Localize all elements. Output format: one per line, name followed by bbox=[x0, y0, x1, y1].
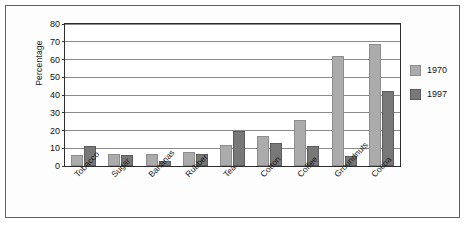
legend-swatch bbox=[410, 89, 421, 100]
chart-legend: 19701997 bbox=[410, 65, 466, 113]
y-tick-label: 0 bbox=[55, 162, 60, 171]
y-tick-label: 10 bbox=[50, 144, 60, 153]
y-tick-label: 20 bbox=[50, 126, 60, 135]
bar bbox=[332, 56, 344, 166]
y-tick-label: 30 bbox=[50, 108, 60, 117]
bar-group bbox=[65, 24, 102, 166]
y-axis-title: Percentage bbox=[34, 8, 44, 118]
bar-group bbox=[177, 24, 214, 166]
bar-group bbox=[251, 24, 288, 166]
bar-group bbox=[288, 24, 325, 166]
bar-group bbox=[139, 24, 176, 166]
y-tick-label: 40 bbox=[50, 91, 60, 100]
chart-figure: Percentage 01020304050607080 TobaccoSuga… bbox=[0, 0, 467, 225]
bar-groups bbox=[65, 24, 400, 166]
legend-item: 1997 bbox=[410, 89, 466, 100]
x-axis-ticks: TobaccoSugarBananasRubberTeaCottonCoffee… bbox=[64, 167, 401, 225]
y-tick-label: 60 bbox=[50, 55, 60, 64]
bar-group bbox=[214, 24, 251, 166]
legend-label: 1997 bbox=[427, 90, 447, 99]
chart-frame: Percentage 01020304050607080 TobaccoSuga… bbox=[5, 5, 460, 218]
bar bbox=[369, 44, 381, 166]
y-tick-label: 80 bbox=[50, 20, 60, 29]
y-tick-label: 70 bbox=[50, 37, 60, 46]
legend-swatch bbox=[410, 65, 421, 76]
y-tick-label: 50 bbox=[50, 73, 60, 82]
plot-area: 01020304050607080 bbox=[64, 23, 401, 167]
legend-item: 1970 bbox=[410, 65, 466, 76]
legend-label: 1970 bbox=[427, 66, 447, 75]
bar bbox=[294, 120, 306, 166]
bar-group bbox=[102, 24, 139, 166]
bar bbox=[233, 131, 245, 166]
